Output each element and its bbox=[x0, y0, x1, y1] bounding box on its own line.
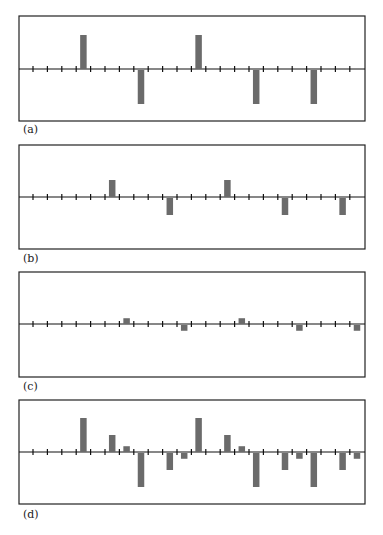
bar bbox=[282, 198, 289, 215]
bar bbox=[296, 453, 303, 459]
bar bbox=[239, 446, 246, 452]
bar bbox=[282, 453, 289, 470]
bar bbox=[181, 453, 188, 459]
bar bbox=[181, 325, 188, 331]
panel-d: (d) bbox=[19, 400, 365, 521]
bar bbox=[339, 198, 346, 215]
bar bbox=[224, 435, 231, 452]
bar bbox=[109, 180, 116, 197]
bar bbox=[311, 70, 318, 104]
bar bbox=[167, 453, 174, 470]
panel-label: (d) bbox=[23, 508, 39, 521]
bar bbox=[354, 325, 361, 331]
bar bbox=[339, 453, 346, 470]
bar bbox=[195, 418, 202, 452]
panel-b: (b) bbox=[19, 145, 365, 265]
panel-label: (c) bbox=[23, 380, 38, 393]
panel-a: (a) bbox=[19, 16, 365, 136]
bar bbox=[123, 446, 130, 452]
panel-c: (c) bbox=[19, 272, 365, 393]
bar bbox=[80, 35, 87, 69]
bar bbox=[296, 325, 303, 331]
figure: (a) (b) (c) (d) bbox=[0, 0, 383, 535]
bar bbox=[354, 453, 361, 459]
bar bbox=[253, 453, 260, 487]
bar bbox=[195, 35, 202, 69]
bar bbox=[80, 418, 87, 452]
bar bbox=[253, 70, 260, 104]
bar bbox=[311, 453, 318, 487]
bar bbox=[123, 318, 130, 324]
bar bbox=[138, 70, 145, 104]
bar bbox=[167, 198, 174, 215]
bar bbox=[224, 180, 231, 197]
panel-label: (b) bbox=[23, 252, 39, 265]
panel-label: (a) bbox=[23, 123, 38, 136]
bar bbox=[138, 453, 145, 487]
bar bbox=[239, 318, 246, 324]
bar bbox=[109, 435, 116, 452]
